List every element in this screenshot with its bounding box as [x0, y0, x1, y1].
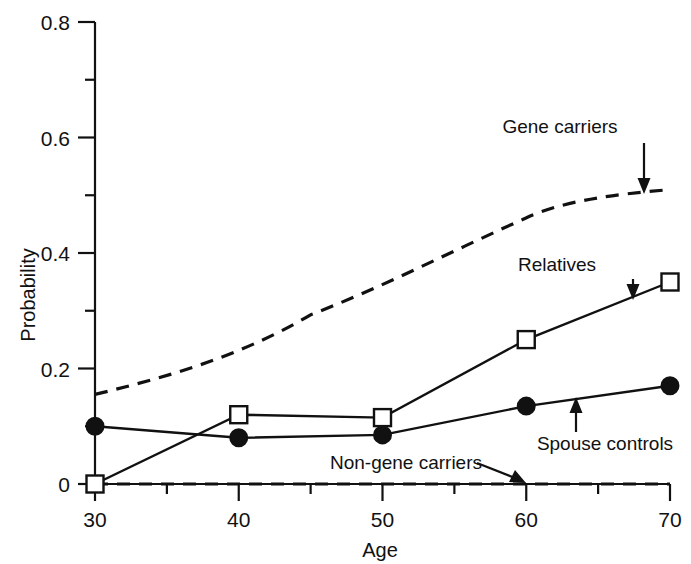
marker-relatives-60 — [518, 331, 535, 348]
annotation-spouse-controls: Spouse controls — [537, 397, 673, 454]
annotation-non-gene-carriers: Non-gene carriers — [330, 452, 526, 483]
marker-relatives-50 — [374, 409, 391, 426]
y-axis-title: Probability — [17, 248, 39, 341]
axis-y — [78, 22, 95, 484]
axis-x — [95, 484, 670, 501]
marker-spouse-controls-50 — [374, 426, 391, 443]
x-tick-label-30: 30 — [83, 508, 106, 531]
x-axis-title: Age — [362, 539, 398, 561]
marker-relatives-30 — [87, 476, 104, 493]
x-tick-label-70: 70 — [658, 508, 681, 531]
series-line-gene-carriers — [95, 190, 670, 395]
annotation-label-non-gene-carriers: Non-gene carriers — [330, 452, 482, 473]
y-tick-label-0.4: 0.4 — [41, 242, 71, 265]
x-tick-label-60: 60 — [515, 508, 538, 531]
marker-relatives-70 — [662, 274, 679, 291]
y-tick-label-0.8: 0.8 — [41, 11, 70, 34]
chart-figure: 0.8 0.6 0.4 0.2 0 30 40 50 60 70 Probabi… — [0, 0, 691, 564]
annotation-label-relatives: Relatives — [518, 254, 596, 275]
marker-spouse-controls-60 — [518, 398, 535, 415]
annotation-label-gene-carriers: Gene carriers — [502, 116, 617, 137]
marker-relatives-40 — [230, 406, 247, 423]
x-tick-label-40: 40 — [227, 508, 250, 531]
y-tick-label-0: 0 — [58, 473, 70, 496]
x-tick-label-50: 50 — [371, 508, 394, 531]
annotation-label-spouse-controls: Spouse controls — [537, 433, 673, 454]
annotation-gene-carriers: Gene carriers — [502, 116, 650, 194]
annotation-arrow-line-non-gene-carriers — [477, 463, 515, 478]
chart-svg: 0.8 0.6 0.4 0.2 0 30 40 50 60 70 Probabi… — [0, 0, 691, 564]
y-tick-label-0.6: 0.6 — [41, 127, 70, 150]
y-tick-label-0.2: 0.2 — [41, 358, 70, 381]
marker-spouse-controls-30 — [87, 418, 104, 435]
marker-spouse-controls-70 — [662, 377, 679, 394]
marker-spouse-controls-40 — [230, 429, 247, 446]
annotation-relatives: Relatives — [518, 254, 640, 300]
